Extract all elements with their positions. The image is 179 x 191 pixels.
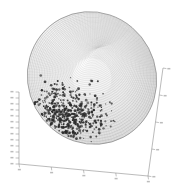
scatter-point <box>43 102 44 103</box>
scatter-point <box>50 84 53 87</box>
scatter-point <box>64 112 66 114</box>
scatter-point <box>38 98 41 101</box>
axis-vertical-left-tick-label <box>10 91 13 93</box>
scatter-point <box>71 96 73 98</box>
scatter-point <box>114 121 115 122</box>
scatter-point <box>69 101 71 103</box>
scatter-point <box>62 91 64 93</box>
scatter-point <box>93 103 96 106</box>
axis-vertical-left-tick-label <box>10 157 13 159</box>
axis-vertical-left-tick-label <box>10 121 13 123</box>
scatter-point <box>72 117 74 119</box>
scatter-point <box>97 80 99 82</box>
axis-vertical-left-tick-label <box>10 133 13 135</box>
scatter-point <box>54 103 56 105</box>
axis-right-depth-tick <box>148 176 151 177</box>
scatter-point <box>62 109 64 111</box>
scatter-point <box>62 131 64 133</box>
axis-bottom-tick-label <box>50 172 53 174</box>
scatter-point <box>91 141 92 142</box>
scatter-point <box>67 118 69 120</box>
scatter-point <box>60 119 62 121</box>
scatter-point <box>75 91 76 92</box>
scatter-point <box>56 91 57 92</box>
scatter-point <box>65 132 67 134</box>
scatter-point <box>80 105 83 108</box>
scatter-point <box>72 128 73 129</box>
scatter-point <box>97 119 99 121</box>
scatter-point <box>75 98 77 100</box>
scatter-point <box>64 108 67 111</box>
scatter-point <box>56 118 57 119</box>
axis-right-depth-tick-label <box>160 122 163 124</box>
axis-right-depth-tick <box>156 122 159 123</box>
scatter-point <box>76 101 78 103</box>
scatter-point <box>79 122 81 124</box>
scatter-point <box>61 102 63 104</box>
scatter-point <box>102 93 103 94</box>
axis-vertical-left-tick-label <box>10 145 13 147</box>
axis-vertical-left-tick-label <box>10 109 13 111</box>
scatter-point <box>54 113 57 116</box>
scatter-point <box>75 119 76 120</box>
scatter-point <box>46 120 47 121</box>
scatter-point <box>63 116 64 117</box>
scatter-point <box>70 77 71 78</box>
scatter-point <box>62 82 64 84</box>
scatter-point <box>76 80 78 82</box>
scatter-point <box>60 99 62 101</box>
scatter-point <box>53 93 54 94</box>
scatter-point <box>59 113 61 115</box>
scatter-point <box>62 87 64 89</box>
scatter-point <box>90 101 92 103</box>
scatter-point <box>92 112 93 113</box>
scatter-point <box>46 96 49 99</box>
scatter-point <box>64 95 66 97</box>
plot-canvas <box>0 0 179 191</box>
scatter-point <box>49 107 51 109</box>
scatter-point <box>92 131 94 133</box>
scatter-point <box>85 124 87 126</box>
scatter-point <box>77 132 79 134</box>
scatter-point <box>38 104 41 107</box>
scatter-point <box>99 105 101 107</box>
scatter-point <box>91 104 92 105</box>
scatter-point <box>75 137 78 140</box>
scatter-point <box>76 96 78 98</box>
scatter-point <box>45 116 47 118</box>
scatter-point <box>47 118 49 120</box>
scatter-point <box>46 106 48 108</box>
axis-vertical-left <box>10 91 19 164</box>
scatter-point <box>67 100 69 102</box>
scatter-point <box>96 102 98 104</box>
scatter-point <box>78 116 79 117</box>
scatter-point <box>48 102 49 103</box>
scatter-point <box>100 125 102 127</box>
scatter-point <box>77 123 79 125</box>
scatter-point <box>76 134 77 135</box>
scatter-point <box>72 130 74 132</box>
scatter-point <box>106 114 108 116</box>
scatter-point <box>61 84 63 86</box>
scatter-point <box>72 113 74 115</box>
scatter-point <box>63 120 64 121</box>
scatter-point <box>89 126 91 128</box>
scatter-point <box>89 93 90 94</box>
scatter-point <box>59 126 61 128</box>
scatter-point <box>56 83 58 85</box>
scatter-point <box>96 115 98 117</box>
scatter-point <box>64 105 66 107</box>
scatter-point <box>46 107 48 109</box>
axis-vertical-left-tick-label <box>10 115 13 117</box>
scatter-point <box>58 88 60 90</box>
scatter-point <box>58 102 60 104</box>
scatter-point <box>66 116 68 118</box>
scatter-point <box>80 113 82 115</box>
scatter-point <box>92 126 93 127</box>
scatter-point <box>70 109 72 111</box>
scatter-point <box>44 100 45 101</box>
scatter-point <box>109 101 111 103</box>
scatter-point <box>61 111 62 112</box>
scatter-point <box>76 112 77 113</box>
scatter-point <box>74 115 77 118</box>
